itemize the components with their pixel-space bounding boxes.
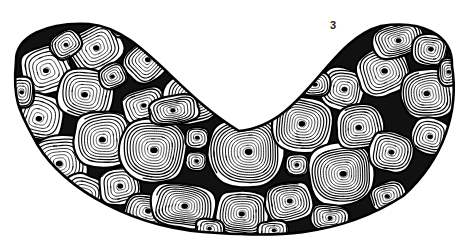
spiral-cell	[119, 119, 187, 183]
cell-nucleus	[381, 68, 387, 73]
spiral-cell	[369, 131, 414, 173]
cell-nucleus	[64, 43, 69, 47]
spiral-cell	[286, 154, 310, 176]
cell-nucleus	[170, 108, 175, 112]
cell-nucleus	[327, 216, 332, 220]
cell-nucleus	[150, 147, 157, 153]
cell-nucleus	[145, 57, 151, 62]
cell-nucleus	[385, 194, 390, 198]
cell-nucleus	[389, 150, 395, 155]
cell-nucleus	[99, 137, 106, 143]
cell-nucleus	[141, 103, 146, 107]
cell-nucleus	[396, 38, 402, 43]
spiral-cell	[149, 94, 200, 125]
cell-nucleus	[81, 92, 88, 97]
cell-nucleus	[295, 163, 300, 167]
cell-nucleus	[423, 91, 429, 96]
figure-number-label: 3	[330, 20, 336, 31]
cell-nucleus	[195, 136, 200, 140]
specimen-plate	[0, 0, 468, 250]
cell-nucleus	[245, 149, 253, 155]
cell-nucleus	[207, 227, 211, 231]
cell-nucleus	[340, 171, 347, 177]
cell-nucleus	[56, 161, 63, 167]
cell-nucleus	[299, 121, 306, 126]
figure-root: 3	[0, 0, 468, 250]
cell-nucleus	[287, 199, 293, 204]
cell-nucleus	[427, 135, 432, 139]
cell-nucleus	[182, 203, 188, 208]
cell-nucleus	[110, 75, 115, 79]
cell-nucleus	[117, 184, 123, 189]
spiral-cell	[185, 151, 207, 171]
cell-nucleus	[43, 68, 49, 73]
cell-nucleus	[36, 116, 42, 121]
spiral-cell	[185, 127, 209, 149]
spiral-ring-segment	[286, 226, 287, 233]
cell-nucleus	[341, 87, 347, 92]
cell-nucleus	[19, 90, 24, 94]
cell-nucleus	[93, 45, 99, 50]
spiral-cell	[308, 142, 374, 206]
cell-nucleus	[356, 125, 362, 130]
cell-nucleus	[272, 229, 276, 233]
cell-nucleus	[239, 211, 245, 216]
cell-nucleus	[447, 70, 452, 74]
cell-nucleus	[145, 209, 151, 214]
cell-nucleus	[194, 159, 199, 163]
spiral-cell	[265, 182, 314, 222]
cell-nucleus	[428, 47, 433, 51]
